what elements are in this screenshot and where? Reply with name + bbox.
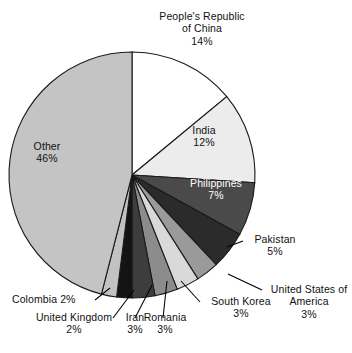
label-china-line2: of China [182, 22, 222, 34]
label-usa-line1: United States of [271, 283, 347, 295]
label-other-value: 46% [18, 152, 76, 164]
pie-chart-figure: People's Republic of China 14% India 12%… [0, 0, 352, 353]
leader-line-south-korea [181, 281, 200, 302]
label-other-name: Other [34, 140, 61, 152]
label-china-line1: People's Republic [159, 10, 244, 22]
label-pakistan: Pakistan 5% [245, 233, 305, 258]
label-other: Other 46% [18, 140, 76, 165]
label-philippines: Philippines 7% [178, 177, 254, 202]
label-south-korea: South Korea 3% [204, 295, 278, 320]
label-colombia: Colombia 2% [12, 293, 98, 305]
label-south-korea-value: 3% [204, 307, 278, 319]
label-pakistan-name: Pakistan [254, 233, 295, 245]
label-india-value: 12% [176, 136, 232, 148]
label-uk-value: 2% [33, 323, 115, 335]
label-india: India 12% [176, 124, 232, 149]
label-colombia-name: Colombia 2% [12, 293, 76, 305]
label-peoples-republic-of-china: People's Republic of China 14% [132, 10, 272, 47]
label-usa-line2: America [289, 295, 328, 307]
leader-line-usa [228, 274, 262, 290]
label-iran-name: Iran [126, 311, 145, 323]
label-south-korea-name: South Korea [211, 295, 270, 307]
pie-slices-group [9, 52, 255, 298]
label-philippines-name: Philippines [190, 177, 242, 189]
label-india-name: India [192, 124, 215, 136]
label-united-kingdom: United Kingdom 2% [33, 311, 115, 336]
label-uk-name: United Kingdom [36, 311, 112, 323]
label-united-states-of-america: United States of America 3% [266, 283, 352, 320]
label-iran-value: 3% [116, 323, 154, 335]
label-pakistan-value: 5% [245, 245, 305, 257]
label-china-value: 14% [132, 35, 272, 47]
label-usa-value: 3% [266, 308, 352, 320]
label-iran: Iran 3% [116, 311, 154, 336]
label-philippines-value: 7% [178, 189, 254, 201]
